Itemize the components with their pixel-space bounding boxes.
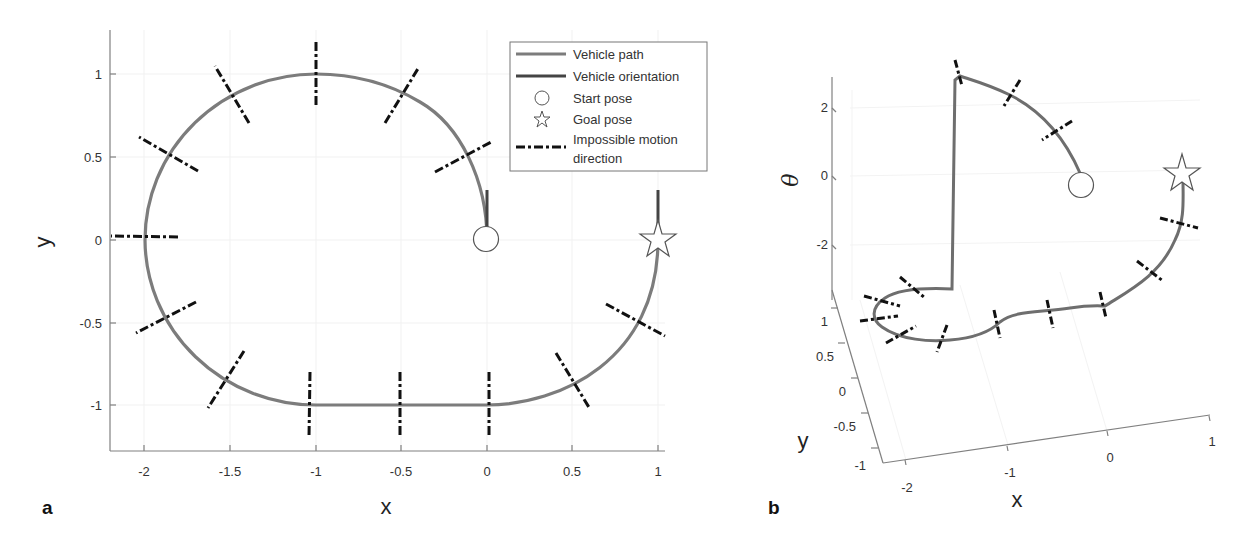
panel-label-a: a <box>42 497 53 518</box>
y-tick-label: 1 <box>821 314 828 329</box>
x-tick-label: -1 <box>310 464 322 479</box>
y-tick-labels-b: 1 0.5 0 -0.5 -1 <box>816 314 866 473</box>
x-tick-label: -0.5 <box>390 464 412 479</box>
theta-tick-label: 0 <box>821 168 828 183</box>
panel-label-b: b <box>768 497 780 518</box>
theta-tick-label: -2 <box>816 237 828 252</box>
x-tick-label: 0 <box>483 464 490 479</box>
y-tick-labels-a: 1 0.5 0 -0.5 -1 <box>80 67 102 413</box>
x-tick-label: -2 <box>138 464 150 479</box>
y-tick-label: -1 <box>90 398 102 413</box>
legend-label-vehicle-orientation: Vehicle orientation <box>573 69 679 84</box>
legend-label-impossible-motion: Impossible motion <box>573 132 678 147</box>
y-tick-label: -0.5 <box>80 316 102 331</box>
theta-axis-label: θ <box>778 173 803 186</box>
theta-tick-label: 2 <box>821 100 828 115</box>
y-tick-label: -1 <box>854 458 866 473</box>
y-tick-label: 0.5 <box>84 150 102 165</box>
theta-tick-labels: 2 0 -2 <box>816 100 828 252</box>
figure-canvas: 1 0.5 0 -0.5 -1 -2 -1.5 -1 -0.5 0 0.5 1 … <box>0 0 1248 537</box>
legend-a: Vehicle path Vehicle orientation Start p… <box>510 42 707 171</box>
y-axis-label-b: y <box>798 428 809 453</box>
x-tick-labels-a: -2 -1.5 -1 -0.5 0 0.5 1 <box>138 464 661 479</box>
vehicle-path-b <box>874 76 1183 341</box>
x-tick-label: 1 <box>654 464 661 479</box>
start-pose-marker-b <box>1069 173 1094 198</box>
legend-label-direction: direction <box>573 151 622 166</box>
x-tick-labels-b: -2 -1 0 1 <box>901 434 1215 495</box>
y-tick-label: -0.5 <box>834 419 856 434</box>
x-tick-label: -2 <box>901 480 913 495</box>
legend-label-vehicle-path: Vehicle path <box>573 47 644 62</box>
x-axis-label-b: x <box>1012 487 1023 512</box>
y-tick-label: 0 <box>95 233 102 248</box>
y-axis-label-a: y <box>30 237 55 248</box>
x-tick-label: 0.5 <box>563 464 581 479</box>
y-tick-label: 0 <box>839 384 846 399</box>
x-tick-label: -1 <box>1004 465 1016 480</box>
legend-circle-icon <box>535 91 549 105</box>
legend-label-start-pose: Start pose <box>573 91 632 106</box>
start-pose-marker-a <box>474 227 499 252</box>
x-tick-label: 1 <box>1208 434 1215 449</box>
panel-a: 1 0.5 0 -0.5 -1 -2 -1.5 -1 -0.5 0 0.5 1 … <box>30 30 707 519</box>
y-tick-label: 1 <box>95 67 102 82</box>
panel-b: 2 0 -2 1 0.5 0 -0.5 -1 -2 -1 0 1 x y θ b <box>768 60 1216 518</box>
legend-label-goal-pose: Goal pose <box>573 112 632 127</box>
y-tick-label: 0.5 <box>816 349 834 364</box>
x-tick-label: 0 <box>1106 450 1113 465</box>
x-axis-label-a: x <box>381 494 392 519</box>
x-tick-label: -1.5 <box>219 464 241 479</box>
